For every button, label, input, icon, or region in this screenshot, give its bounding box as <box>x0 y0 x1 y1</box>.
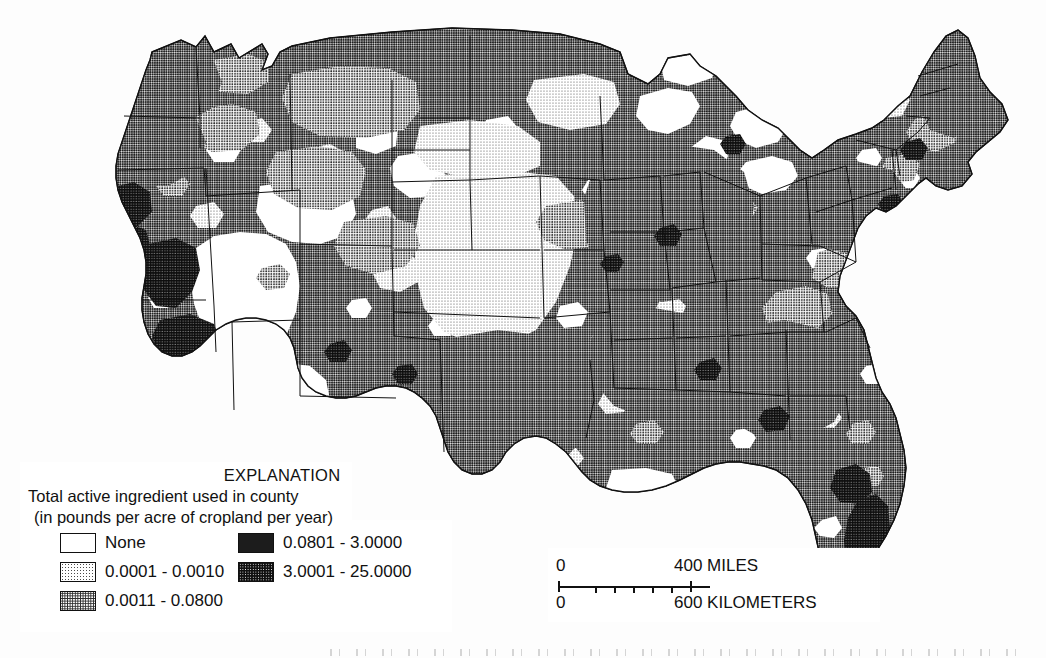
scale-km-end: 600 KILOMETERS <box>674 593 817 613</box>
legend-swatch-class4 <box>238 562 274 582</box>
scale-tick-end <box>690 581 692 592</box>
scale-tick-0 <box>558 581 560 592</box>
legend-swatch-class3 <box>238 533 274 553</box>
scale-kilometers-labels: 0 600 KILOMETERS <box>556 593 856 617</box>
scale-km-start: 0 <box>556 593 565 613</box>
map-legend: EXPLANATION Total active ingredient used… <box>28 466 448 619</box>
scale-tick-1 <box>595 586 597 593</box>
legend-label-class2: 0.0011 - 0.0800 <box>105 591 223 611</box>
legend-item-class1[interactable]: 0.0001 - 0.0010 <box>60 562 224 582</box>
legend-item-class2[interactable]: 0.0011 - 0.0800 <box>60 591 223 611</box>
scale-bar-graphic <box>558 581 710 592</box>
legend-label-none: None <box>105 533 146 553</box>
scale-tick-5 <box>671 586 673 593</box>
legend-subtitle-line2: (in pounds per acre of cropland per year… <box>28 507 448 528</box>
map-scale-bar: 0 400 MILES 0 600 KILOMETERS <box>556 556 856 617</box>
scale-miles-labels: 0 400 MILES <box>556 556 856 580</box>
legend-swatch-class1 <box>60 562 96 582</box>
map-figure: EXPLANATION Total active ingredient used… <box>0 0 1046 658</box>
legend-swatch-grid: None 0.0001 - 0.0010 0.0011 - 0.0800 0.0… <box>28 533 448 619</box>
scale-tick-2 <box>614 586 616 593</box>
scale-miles-start: 0 <box>556 556 565 576</box>
scale-miles-end: 400 MILES <box>674 556 758 576</box>
scan-artifact <box>330 649 1030 656</box>
legend-label-class3: 0.0801 - 3.0000 <box>283 533 402 553</box>
scale-tick-3 <box>633 586 635 593</box>
legend-item-class4[interactable]: 3.0001 - 25.0000 <box>238 562 412 582</box>
legend-swatch-class2 <box>60 591 96 611</box>
legend-swatch-none <box>60 533 96 553</box>
legend-subtitle-line1: Total active ingredient used in county <box>28 486 448 507</box>
legend-item-class3[interactable]: 0.0801 - 3.0000 <box>238 533 402 553</box>
legend-label-class4: 3.0001 - 25.0000 <box>283 562 412 582</box>
legend-heading: EXPLANATION <box>28 466 448 485</box>
legend-label-class1: 0.0001 - 0.0010 <box>105 562 224 582</box>
scale-tick-4 <box>652 586 654 593</box>
legend-item-none[interactable]: None <box>60 533 146 553</box>
